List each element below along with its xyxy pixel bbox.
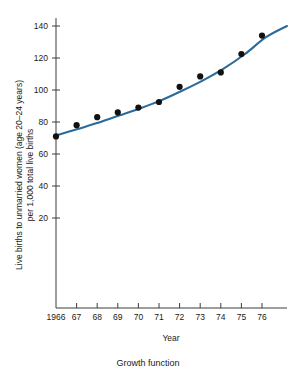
data-point	[135, 105, 141, 111]
x-tick-label: 74	[216, 312, 226, 322]
x-tick-label: 72	[175, 312, 185, 322]
x-tick-label: 68	[92, 312, 102, 322]
y-axis-label-line2: per 1,000 total live births	[25, 129, 35, 222]
y-tick-label: 20	[39, 213, 49, 223]
axes-group	[56, 18, 287, 308]
data-point	[156, 99, 162, 105]
data-point	[259, 33, 265, 39]
data-point	[115, 109, 121, 115]
x-tick-label: 75	[237, 312, 247, 322]
x-tick-label: 73	[195, 312, 205, 322]
x-tick-label: 76	[257, 312, 267, 322]
y-axis-label-group: Live births to unmarried women (age 20–2…	[14, 80, 35, 270]
x-tick-label: 71	[154, 312, 164, 322]
data-point	[74, 122, 80, 128]
x-tick-label: 69	[113, 312, 123, 322]
x-tick-label: 70	[134, 312, 144, 322]
x-axis-label: Year	[162, 333, 179, 343]
data-point	[197, 73, 203, 79]
y-tick-label: 120	[34, 53, 48, 63]
growth-function-chart: Live births to unmarried women (age 20–2…	[0, 0, 297, 374]
data-point	[238, 51, 244, 57]
y-tick-label: 40	[39, 181, 49, 191]
chart-figure: Live births to unmarried women (age 20–2…	[0, 0, 297, 374]
y-tick-label: 140	[34, 21, 48, 31]
x-tick-label: 67	[72, 312, 82, 322]
data-point-markers	[53, 33, 265, 140]
x-tick-label: 1966	[47, 312, 66, 322]
y-tick-label: 100	[34, 85, 48, 95]
data-point	[177, 84, 183, 90]
y-axis-label-line1: Live births to unmarried women (age 20–2…	[14, 80, 24, 270]
fitted-growth-curve	[56, 26, 287, 136]
y-tick-label: 80	[39, 117, 49, 127]
figure-caption: Growth function	[116, 358, 179, 368]
y-tick-label: 60	[39, 149, 49, 159]
data-point	[53, 133, 59, 139]
x-axis-ticks: 196667686970717273747576	[47, 303, 267, 322]
data-point	[218, 69, 224, 75]
data-point	[94, 114, 100, 120]
